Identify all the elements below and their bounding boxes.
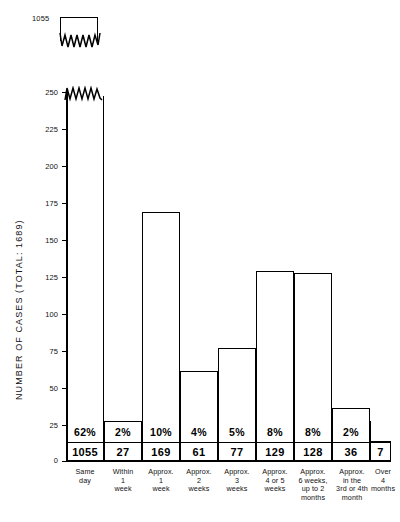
value-label-approx-4-or-5-weeks: 129 <box>256 443 294 461</box>
percent-label-approx-4-or-5-weeks: 8% <box>256 422 294 442</box>
chart-root: 1055 NUMBER OF CASES (TOTAL: 1689) 250 2… <box>0 0 400 522</box>
value-label-over-4-months: 7 <box>370 443 391 461</box>
value-label-approx-6-weeks-to-2-months: 128 <box>294 443 332 461</box>
percent-label-approx-1-week: 10% <box>142 422 180 442</box>
value-label-approx-2-weeks: 61 <box>180 443 218 461</box>
y-tick-label-25: 25 <box>28 421 58 430</box>
y-tick-label-75: 75 <box>28 347 58 356</box>
y-tick-label-0: 0 <box>28 456 58 465</box>
percent-label-approx-3rd-or-4th-month: 2% <box>332 422 370 442</box>
y-tick-label-225: 225 <box>28 125 58 134</box>
value-label-within-1-week: 27 <box>104 443 142 461</box>
y-tick-label-175: 175 <box>28 199 58 208</box>
broken-bar-value-label: 1055 <box>32 14 50 23</box>
value-label-same-day: 1055 <box>66 443 104 461</box>
y-tick-label-50: 50 <box>28 384 58 393</box>
category-line: month <box>327 494 377 503</box>
category-line: months <box>366 485 400 494</box>
bar-same-day <box>66 96 104 461</box>
category-label-over-4-months: Over 4 months <box>366 468 400 494</box>
y-axis-title: NUMBER OF CASES (TOTAL: 1689) <box>14 219 24 400</box>
y-tick-label-150: 150 <box>28 236 58 245</box>
y-tick-label-200: 200 <box>28 162 58 171</box>
percent-label-same-day: 62% <box>66 422 104 442</box>
value-label-approx-3rd-or-4th-month: 36 <box>332 443 370 461</box>
percent-label-within-1-week: 2% <box>104 422 142 442</box>
percent-label-approx-2-weeks: 4% <box>180 422 218 442</box>
percent-label-approx-6-weeks-to-2-months: 8% <box>294 422 332 442</box>
value-label-approx-1-week: 169 <box>142 443 180 461</box>
y-tick-label-125: 125 <box>28 273 58 282</box>
axis-break-zigzag-top <box>58 32 102 50</box>
value-label-approx-3-weeks: 77 <box>218 443 256 461</box>
y-tick-label-250: 250 <box>28 88 58 97</box>
percent-label-approx-3-weeks: 5% <box>218 422 256 442</box>
y-tick-label-100: 100 <box>28 310 58 319</box>
